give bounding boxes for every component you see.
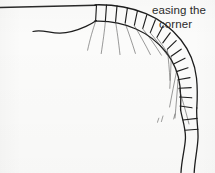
annotation-label-line-2: corner <box>159 18 192 32</box>
band-joint-line-15 <box>179 88 191 89</box>
sketch-page: easing the corner <box>0 0 215 173</box>
annotation-label-line-1: easing the <box>152 4 206 18</box>
